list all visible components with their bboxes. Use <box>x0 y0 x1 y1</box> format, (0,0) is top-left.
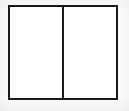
outer-frame <box>8 5 118 100</box>
right-panel[interactable] <box>64 7 116 98</box>
left-panel[interactable] <box>10 7 62 98</box>
diagram-canvas <box>0 0 129 111</box>
